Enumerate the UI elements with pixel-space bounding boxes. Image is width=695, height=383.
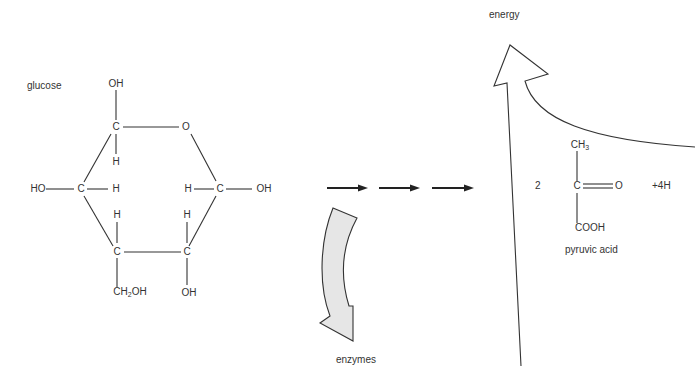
atom-c5: C [216,183,223,195]
atom-c5-oh: OH [257,183,272,195]
enzyme-arrow-icon [320,208,357,341]
atom-c3-ch2oh: CH2OH [113,286,146,301]
atom-ch3: CH3 [571,139,589,154]
atom-c2-ho: HO [31,183,46,195]
atom-ring-o: O [182,121,190,133]
atom-cooh: COOH [575,222,605,234]
ch2oh-main: CH [113,286,127,297]
pyruvic-bonds [577,151,613,223]
atom-carbonyl-o: O [615,180,623,192]
diagram-canvas [0,0,695,383]
pyruvic-acid-label: pyruvic acid [565,244,618,256]
atom-c2-h: H [112,183,119,195]
atom-c1-oh: OH [109,78,124,90]
atom-c1-h: H [112,156,119,168]
atom-c3: C [113,246,120,258]
atom-c4: C [183,246,190,258]
energy-label: energy [489,9,520,21]
ch2oh-tail: OH [132,286,147,297]
atom-c2: C [77,183,84,195]
coefficient-label: 2 [535,180,541,192]
ch3-subscript: 3 [585,144,589,151]
atom-c5-h: H [184,183,191,195]
atom-c1: C [112,121,119,133]
enzymes-label: enzymes [336,354,376,366]
atom-carbonyl-c: C [573,180,580,192]
ch3-main: CH [571,139,585,150]
hydrogen-label: +4H [652,180,671,192]
atom-c4-h: H [183,209,190,221]
energy-arrow-icon [494,45,695,366]
atom-c3-h: H [113,209,120,221]
glucose-label: glucose [27,80,61,92]
atom-c4-oh: OH [182,287,197,299]
